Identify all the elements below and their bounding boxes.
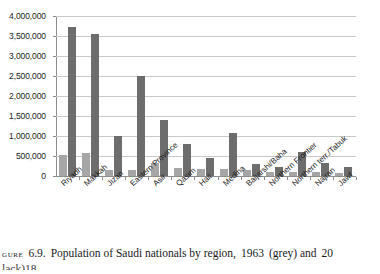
bar-2004 [91, 34, 99, 176]
y-axis-tick-mark [53, 116, 56, 117]
bar-2004 [137, 76, 145, 176]
y-axis-tick-mark [53, 76, 56, 77]
caption-year-1963: 1963 [241, 247, 264, 259]
caption-figure-word: gure [2, 248, 23, 259]
x-axis-tick-mark [310, 177, 311, 180]
bar-1963 [59, 155, 67, 176]
caption-year1-note: (grey) and [269, 247, 317, 259]
bar-group [82, 16, 105, 176]
y-axis-tick-label: 2,500,000 [9, 72, 46, 81]
x-axis-tick-mark [102, 177, 103, 180]
y-axis-tick-mark [53, 176, 56, 177]
figure-caption: gure6.9.Population of Saudi nationals by… [0, 246, 380, 270]
y-axis-tick-mark [53, 36, 56, 37]
bar-1963 [82, 153, 90, 176]
y-axis-tick-label: 4,000,000 [9, 12, 46, 21]
y-axis-tick-mark [53, 96, 56, 97]
bar-group [335, 16, 358, 176]
x-axis-tick-mark [287, 177, 288, 180]
x-axis-tick-mark [148, 177, 149, 180]
y-axis-tick-mark [53, 156, 56, 157]
x-axis-tick-mark [125, 177, 126, 180]
caption-line-2: lack)18 [0, 262, 380, 270]
y-axis-tick-mark [53, 136, 56, 137]
figure-chart-area: 4,000,0003,500,0003,000,0002,500,0002,00… [0, 0, 380, 240]
caption-text: Population of Saudi nationals by region, [51, 247, 236, 259]
caption-line-1: gure6.9.Population of Saudi nationals by… [0, 246, 380, 262]
x-axis-tick-mark [194, 177, 195, 180]
bar-group [174, 16, 197, 176]
y-axis-tick-label: 3,500,000 [9, 32, 46, 41]
caption-line2-partial: lack) [2, 263, 25, 270]
x-axis-tick-mark [264, 177, 265, 180]
x-axis-tick-mark [79, 177, 80, 180]
x-axis-tick-mark [356, 177, 357, 180]
bar-group [243, 16, 266, 176]
x-axis-tick-mark [333, 177, 334, 180]
bar-2004 [68, 27, 76, 176]
x-axis-category-labels: RiyadhMakkahJizanEastern ProvinceAsirQas… [0, 180, 380, 240]
bar-group [105, 16, 128, 176]
y-axis-tick-mark [53, 56, 56, 57]
y-axis-tick-label: 1,500,000 [9, 112, 46, 121]
y-axis-tick-label: 500,000 [16, 152, 46, 161]
bar-group [220, 16, 243, 176]
bar-group [128, 16, 151, 176]
x-axis-tick-mark [218, 177, 219, 180]
y-axis-tick-label: 1,000,000 [9, 132, 46, 141]
caption-year-2004-partial: 20 [322, 247, 334, 259]
x-axis-tick-mark [171, 177, 172, 180]
caption-figure-number: 6.9. [28, 247, 45, 259]
bar-group [197, 16, 220, 176]
y-axis-tick-mark [53, 16, 56, 17]
bar-group [59, 16, 82, 176]
x-axis-tick-mark [241, 177, 242, 180]
y-axis-tick-label: 3,000,000 [9, 52, 46, 61]
y-axis-tick-label: 2,000,000 [9, 92, 46, 101]
caption-footnote-marker: 18 [25, 263, 37, 270]
